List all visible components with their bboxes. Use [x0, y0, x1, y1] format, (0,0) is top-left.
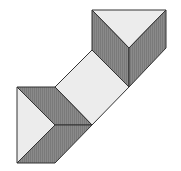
geometric-net-diagram [0, 0, 181, 171]
shapes-layer [17, 10, 166, 163]
